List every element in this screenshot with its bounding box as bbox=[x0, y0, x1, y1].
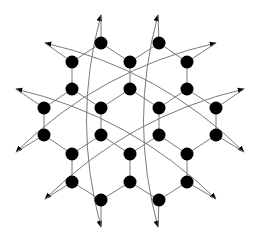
graph-node bbox=[124, 56, 137, 69]
graph-node bbox=[95, 129, 108, 142]
graph-node bbox=[181, 56, 194, 69]
graph-node bbox=[153, 194, 166, 207]
graph-node bbox=[66, 56, 79, 69]
graph-node bbox=[124, 83, 137, 96]
graph-node bbox=[66, 148, 79, 161]
graph-node bbox=[153, 129, 166, 142]
graph-node bbox=[124, 176, 137, 189]
graph-nodes bbox=[38, 37, 223, 207]
graph-node bbox=[210, 102, 223, 115]
graph-node bbox=[153, 37, 166, 50]
graph-node bbox=[38, 129, 51, 142]
graph-node bbox=[66, 176, 79, 189]
graph-node bbox=[124, 148, 137, 161]
graph-node bbox=[181, 148, 194, 161]
graph-node bbox=[210, 129, 223, 142]
graph-node bbox=[181, 176, 194, 189]
graph-node bbox=[95, 194, 108, 207]
honeycomb-graph-diagram bbox=[0, 0, 258, 238]
graph-node bbox=[95, 37, 108, 50]
graph-node bbox=[153, 102, 166, 115]
graph-node bbox=[181, 83, 194, 96]
graph-node bbox=[95, 102, 108, 115]
graph-node bbox=[38, 102, 51, 115]
graph-node bbox=[66, 83, 79, 96]
